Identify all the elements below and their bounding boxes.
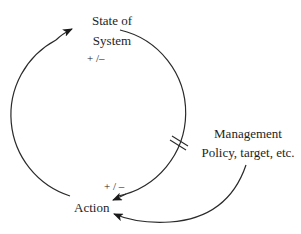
node-management-line2: Policy, target, etc. xyxy=(200,143,296,162)
node-action: Action xyxy=(74,200,109,215)
node-state-line2: System xyxy=(82,31,142,51)
node-management: Management Policy, target, etc. xyxy=(200,124,296,162)
link-state-to-action xyxy=(118,30,186,196)
arrowhead-state-icon xyxy=(56,29,72,40)
polarity-label-state: + /– xyxy=(87,52,105,64)
link-management-to-action xyxy=(114,165,246,222)
polarity-label-action: + / – xyxy=(104,180,124,192)
arrowhead-action-icon xyxy=(113,194,126,200)
link-action-to-state xyxy=(11,40,70,196)
node-state-line1: State of xyxy=(82,11,142,31)
node-management-line1: Management xyxy=(200,124,296,143)
delay-mark-icon xyxy=(170,136,188,150)
diagram-canvas xyxy=(0,0,301,234)
node-state-of-system: State of System xyxy=(82,11,142,51)
